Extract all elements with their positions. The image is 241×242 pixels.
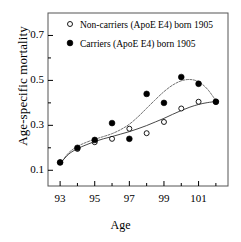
axis-ticks [48,35,216,186]
x-tick-97: 97 [114,192,144,204]
legend-label-non-carriers: Non-carriers (ApoE E4) born 1905 [80,20,213,30]
point-carriers-100 [178,74,184,80]
point-non-carriers-97 [127,126,132,131]
x-tick-99: 99 [149,192,179,204]
point-non-carriers-101 [196,99,201,104]
y-tick-0-5: 0.5 [16,73,44,85]
point-carriers-102 [213,99,219,105]
point-non-carriers-100 [179,106,184,111]
legend-markers [67,22,73,46]
point-carriers-93 [57,160,63,166]
legend-marker-carriers [67,40,73,46]
x-tick-101: 101 [184,192,214,204]
point-carriers-96 [109,120,115,126]
x-tick-93: 93 [45,192,75,204]
data-points [57,74,219,165]
point-carriers-99 [161,100,167,106]
legend-label-carriers: Carriers (ApoE E4) born 1905 [80,39,196,49]
point-carriers-98 [144,91,150,97]
point-non-carriers-99 [161,119,166,124]
y-tick-0-1: 0.1 [16,163,44,175]
chart-figure: Age-specific mortality Age Non-carriers … [0,0,241,242]
point-carriers-95 [92,137,98,143]
point-non-carriers-96 [110,136,115,141]
y-tick-0-7: 0.7 [16,28,44,40]
y-tick-0-3: 0.3 [16,118,44,130]
legend-marker-non-carriers [68,22,73,27]
x-tick-95: 95 [80,192,110,204]
point-non-carriers-98 [144,131,149,136]
x-axis-title: Age [0,218,241,233]
point-carriers-101 [196,81,202,87]
point-carriers-97 [126,136,132,142]
point-carriers-94 [75,145,81,151]
fit-curves [60,79,216,164]
